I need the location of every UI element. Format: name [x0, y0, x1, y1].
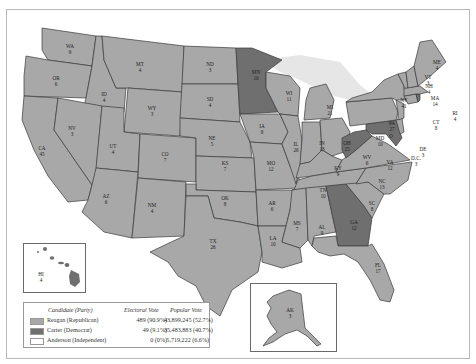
legend-row-reagan: Reagan (Republican) 489 (90.9%) 43,899,2… — [24, 317, 209, 326]
legend-popular-vote: 35,483,883 (40.7%) — [164, 327, 209, 333]
state-CO[interactable] — [138, 134, 196, 182]
legend: Candidate (Party) Electoral Vote Popular… — [23, 302, 210, 348]
svg-text:PA27: PA27 — [389, 120, 395, 132]
svg-text:HI4: HI4 — [38, 271, 44, 283]
hawaii-map: HI4 — [24, 244, 84, 291]
svg-text:NY41: NY41 — [400, 97, 408, 109]
legend-candidate: Reagan (Republican) — [47, 317, 99, 323]
legend-electoral-vote: 49 (9.1%) — [127, 327, 167, 333]
svg-text:IN13: IN13 — [319, 140, 325, 152]
svg-text:CT8: CT8 — [433, 119, 440, 131]
hawaii-inset: HI4 — [23, 243, 86, 293]
legend-electoral-vote: 489 (90.9%) — [127, 317, 167, 323]
svg-text:MI21: MI21 — [327, 104, 334, 116]
legend-header-popular: Popular Vote — [170, 307, 202, 313]
legend-electoral-vote: 0 (0%) — [127, 337, 167, 343]
legend-swatch-independent — [30, 338, 44, 345]
svg-text:IL26: IL26 — [293, 141, 299, 153]
state-HI[interactable] — [69, 270, 80, 287]
legend-candidate: Anderson (Independent) — [47, 337, 106, 343]
legend-popular-vote: 43,899,245 (52.7%) — [164, 317, 209, 323]
svg-text:RI4: RI4 — [452, 110, 457, 122]
svg-text:FL17: FL17 — [375, 262, 381, 274]
state-NM[interactable] — [132, 178, 186, 238]
legend-header-electoral: Electoral Vote — [124, 307, 159, 313]
legend-row-anderson: Anderson (Independent) 0 (0%) 5,719,222 … — [24, 337, 209, 346]
state-AK[interactable] — [263, 290, 321, 346]
legend-header-candidate: Candidate (Party) — [48, 307, 93, 313]
svg-text:MA14: MA14 — [431, 95, 440, 107]
legend-swatch-democrat — [30, 328, 44, 335]
alaska-map: AK3 — [251, 284, 335, 350]
legend-candidate: Carter (Democrat) — [47, 327, 92, 333]
legend-popular-vote: 5,719,222 (6.6%) — [164, 337, 209, 343]
legend-swatch-republican — [30, 318, 44, 325]
svg-text:NH4: NH4 — [425, 83, 433, 95]
svg-text:D.C.3: D.C.3 — [411, 155, 421, 167]
alaska-inset: AK3 — [250, 283, 337, 352]
legend-row-carter: Carter (Democrat) 49 (9.1%) 35,483,883 (… — [24, 327, 209, 336]
state-DC[interactable] — [389, 134, 392, 137]
